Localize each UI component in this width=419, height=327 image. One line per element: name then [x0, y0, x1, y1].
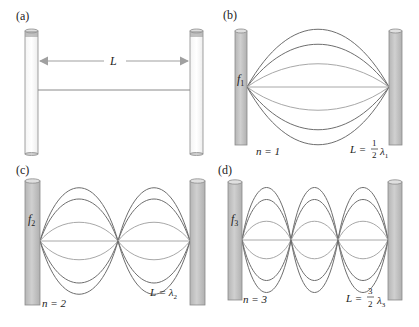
- svg-text:λ1: λ1: [379, 145, 389, 160]
- mode-number-label: n = 1: [256, 145, 280, 157]
- wave-envelope-n3: [242, 188, 388, 293]
- wave-envelope-n1: [247, 29, 389, 145]
- left-post: [228, 180, 242, 300]
- svg-text:2: 2: [372, 150, 377, 160]
- mode-number-label: n = 2: [42, 297, 66, 309]
- panel-c-label: (c): [16, 163, 29, 177]
- right-post: [190, 29, 203, 156]
- panel-b: (b) f1 n = 1 L = 1 2 λ1: [223, 8, 402, 160]
- length-relation: L = 3 2 λ3: [345, 286, 386, 309]
- svg-text:3: 3: [368, 286, 373, 296]
- svg-text:L =: L =: [349, 143, 366, 155]
- panel-d-label: (d): [218, 163, 232, 177]
- svg-text:1: 1: [372, 138, 377, 148]
- standing-waves-diagram: (a) L (b): [0, 0, 419, 327]
- panel-a: (a) L: [16, 9, 203, 156]
- svg-text:2: 2: [368, 299, 373, 309]
- svg-text:λ3: λ3: [376, 294, 386, 309]
- panel-d: (d): [218, 163, 402, 309]
- wave-envelope-n2: [40, 188, 190, 295]
- svg-text:L =: L =: [345, 292, 362, 304]
- panel-a-label: (a): [16, 9, 29, 23]
- right-post: [389, 29, 402, 145]
- mode-number-label: n = 3: [243, 293, 267, 305]
- left-post: [25, 29, 38, 156]
- panel-c: (c) f2 n = 2 L: [16, 163, 205, 309]
- length-relation: L = λ2: [149, 286, 178, 301]
- length-label: L: [109, 54, 117, 68]
- right-post: [388, 180, 402, 300]
- right-post: [190, 179, 205, 305]
- length-relation: L = 1 2 λ1: [349, 138, 389, 160]
- left-post: [25, 179, 40, 305]
- panel-b-label: (b): [223, 8, 237, 22]
